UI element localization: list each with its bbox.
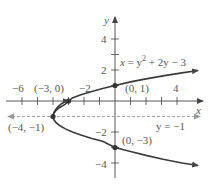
tick-label-neg4y: −4 <box>95 158 107 170</box>
tick-label-neg6: −6 <box>12 82 24 94</box>
label-point-0-1: (0, 1) <box>125 82 149 95</box>
point-0-1 <box>112 83 117 88</box>
point-m3-0 <box>66 98 71 103</box>
point-vertex <box>50 114 55 119</box>
label-point-0-m3: (0, −3) <box>122 134 152 147</box>
equation-label: x = y2 + 2y − 3 <box>119 54 187 68</box>
tick-label-4x: 4 <box>173 82 179 94</box>
tick-label-neg2: −2 <box>79 82 91 94</box>
symmetry-left-arrow-icon <box>7 114 14 120</box>
y-axis-label: y <box>103 14 109 26</box>
tick-label-2y: 2 <box>101 64 107 76</box>
tick-label-neg2y: −2 <box>95 126 107 138</box>
label-point-vertex: (−4, −1) <box>8 121 45 134</box>
label-point-m3-0: (−3, 0) <box>34 82 64 95</box>
point-0-m3 <box>112 145 117 150</box>
parabola-graph: y x −6 −2 4 4 2 −2 −4 (−3, 0) (0, 1) (−4… <box>0 0 211 191</box>
label-symmetry-line: y = −1 <box>156 120 185 132</box>
tick-label-4y: 4 <box>101 33 107 45</box>
x-axis-label: x <box>195 104 201 116</box>
